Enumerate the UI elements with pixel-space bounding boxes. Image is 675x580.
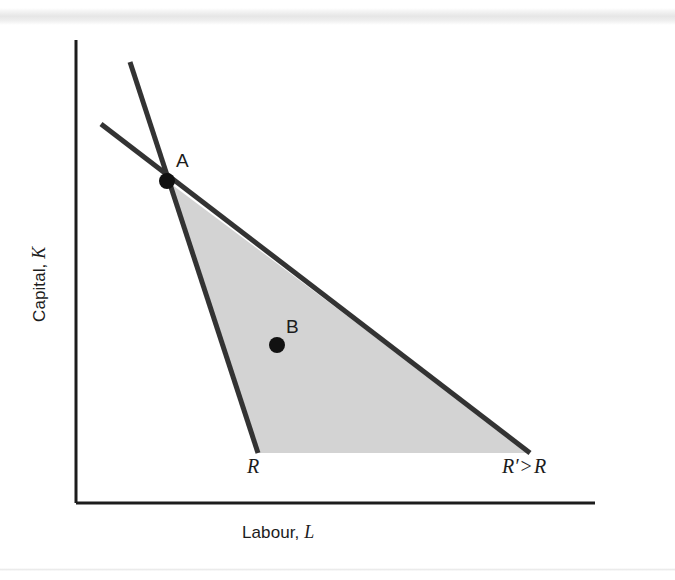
x-axis-label-variable: L (304, 522, 314, 542)
isocost-plot (0, 0, 675, 580)
x-axis-label: Labour, L (242, 523, 314, 541)
point-marker-b (269, 337, 285, 353)
y-axis-label: Capital, K (30, 247, 48, 322)
r-prime-variable: R (502, 455, 514, 477)
point-label-a: A (176, 151, 189, 170)
isocost-label-r: R (247, 456, 259, 476)
isocost-label-r-prime: R′>R (502, 456, 546, 476)
point-marker-a (159, 173, 175, 189)
x-axis-label-text: Labour, (242, 523, 304, 542)
r-compare-variable: R (534, 455, 546, 477)
figure-container: Capital, K Labour, L A B R R′>R (0, 0, 675, 580)
prime-glyph: ′ (514, 455, 518, 477)
y-axis-label-variable: K (29, 247, 49, 259)
relation-glyph: > (519, 455, 534, 477)
y-axis-label-text: Capital, (30, 259, 49, 322)
point-label-b: B (286, 317, 299, 336)
